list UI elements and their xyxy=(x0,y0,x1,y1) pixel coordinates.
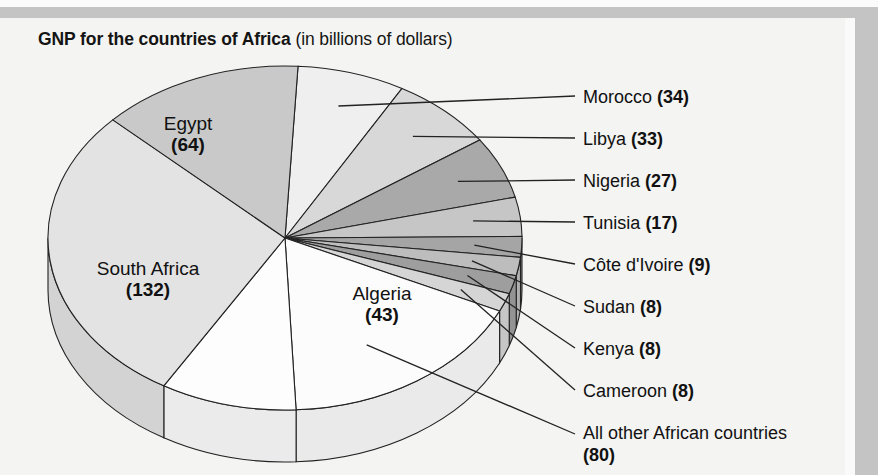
callout-nigeria: Nigeria (27) xyxy=(583,170,677,192)
callout-kenya-value: (8) xyxy=(639,339,661,359)
callout-cote-divoire: Côte d'Ivoire (9) xyxy=(583,254,711,276)
callout-cameroon: Cameroon (8) xyxy=(583,380,694,402)
slice-label-algeria-name: Algeria xyxy=(352,283,411,304)
callout-kenya-name: Kenya xyxy=(583,339,634,359)
callout-all-other-african-countries: All other African countries (80) xyxy=(583,422,818,466)
callout-morocco-value: (34) xyxy=(657,87,689,107)
slice-label-egypt: Egypt (64) xyxy=(128,113,248,155)
callout-cote-divoire-name: Côte d'Ivoire xyxy=(583,255,684,275)
callout-cameroon-value: (8) xyxy=(672,381,694,401)
slice-label-algeria-value: (43) xyxy=(312,304,452,325)
callout-tunisia-name: Tunisia xyxy=(583,213,640,233)
slice-label-south-africa-name: South Africa xyxy=(97,258,199,279)
page-right-edge-band xyxy=(855,7,878,475)
pie-top-face xyxy=(48,66,522,410)
slice-label-south-africa-value: (132) xyxy=(48,279,248,300)
callout-tunisia: Tunisia (17) xyxy=(583,212,677,234)
page-top-margin xyxy=(0,0,878,7)
slice-label-egypt-name: Egypt xyxy=(164,113,213,134)
callout-tunisia-value: (17) xyxy=(645,213,677,233)
slice-label-south-africa: South Africa (132) xyxy=(48,258,248,300)
callout-all-other-value: (80) xyxy=(583,445,615,465)
callout-libya-value: (33) xyxy=(631,129,663,149)
callout-all-other-name: All other African countries xyxy=(583,423,787,443)
callout-libya: Libya (33) xyxy=(583,128,663,150)
callout-kenya: Kenya (8) xyxy=(583,338,661,360)
callout-sudan-value: (8) xyxy=(640,297,662,317)
callout-cote-divoire-value: (9) xyxy=(689,255,711,275)
slice-label-algeria: Algeria (43) xyxy=(312,283,452,325)
page-top-edge-band xyxy=(0,7,878,18)
callout-nigeria-name: Nigeria xyxy=(583,171,640,191)
callout-morocco: Morocco (34) xyxy=(583,86,689,108)
chart-canvas: GNP for the countries of Africa (in bill… xyxy=(0,18,855,475)
callout-sudan-name: Sudan xyxy=(583,297,635,317)
callout-sudan: Sudan (8) xyxy=(583,296,662,318)
callout-nigeria-value: (27) xyxy=(645,171,677,191)
callout-morocco-name: Morocco xyxy=(583,87,652,107)
callout-libya-name: Libya xyxy=(583,129,626,149)
callout-cameroon-name: Cameroon xyxy=(583,381,667,401)
slice-label-egypt-value: (64) xyxy=(128,134,248,155)
pie-chart-graphic xyxy=(0,18,855,475)
